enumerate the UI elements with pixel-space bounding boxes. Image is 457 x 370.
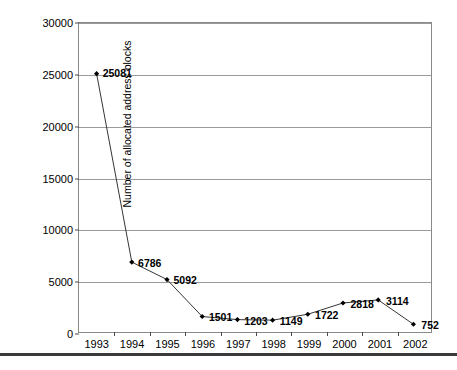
y-tick-mark [75,178,79,179]
plot-area: Number of allocated address blocks 05000… [78,22,432,333]
gridline [79,23,431,24]
x-tick-label: 1993 [84,338,108,350]
y-tick-mark [75,230,79,231]
x-tick-mark [327,332,328,336]
x-tick-mark [114,332,115,336]
x-tick-label: 1995 [155,338,179,350]
footer-rule [0,353,457,356]
x-tick-label: 1996 [191,338,215,350]
data-point-label: 1722 [315,309,338,321]
y-tick-label: 20000 [42,121,73,133]
data-point-label: 1501 [209,311,232,323]
data-point-marker [340,300,345,305]
data-point-label: 752 [421,319,439,331]
x-tick-mark [185,332,186,336]
y-tick-label: 25000 [42,69,73,81]
y-tick-mark [75,126,79,127]
data-point-marker [235,317,240,322]
x-tick-mark [291,332,292,336]
gridline [79,230,431,231]
x-tick-label: 2001 [368,338,392,350]
x-tick-mark [150,332,151,336]
gridline [79,282,431,283]
data-point-label: 3114 [386,295,409,307]
y-tick-label: 5000 [49,276,73,288]
data-point-label: 1149 [280,315,303,327]
y-tick-mark [75,23,79,24]
data-point-label: 6786 [138,257,161,269]
gridline [79,127,431,128]
y-tick-mark [75,282,79,283]
data-point-label: 5092 [174,274,197,286]
data-point-marker [129,260,134,265]
x-tick-label: 1998 [261,338,285,350]
y-tick-label: 30000 [42,17,73,29]
x-tick-label: 2000 [332,338,356,350]
x-tick-mark [398,332,399,336]
data-point-label: 25081 [103,67,132,79]
data-point-marker [376,297,381,302]
y-tick-mark [75,334,79,335]
series-polyline [97,74,414,325]
x-tick-mark [362,332,363,336]
data-point-marker [200,314,205,319]
x-tick-mark [256,332,257,336]
x-tick-label: 1997 [226,338,250,350]
data-point-marker [411,322,416,327]
y-axis-title: Number of allocated address blocks [121,4,133,244]
chart-figure: Number of allocated address blocks 05000… [0,0,457,370]
y-tick-label: 15000 [42,173,73,185]
gridline [79,179,431,180]
y-tick-mark [75,74,79,75]
x-tick-label: 1994 [120,338,144,350]
x-tick-mark [221,332,222,336]
y-tick-label: 10000 [42,224,73,236]
data-point-label: 2818 [351,298,374,310]
x-tick-label: 2002 [403,338,427,350]
y-tick-label: 0 [67,328,73,340]
x-tick-label: 1999 [297,338,321,350]
data-point-label: 1203 [244,315,267,327]
data-point-marker [270,318,275,323]
data-point-marker [305,312,310,317]
